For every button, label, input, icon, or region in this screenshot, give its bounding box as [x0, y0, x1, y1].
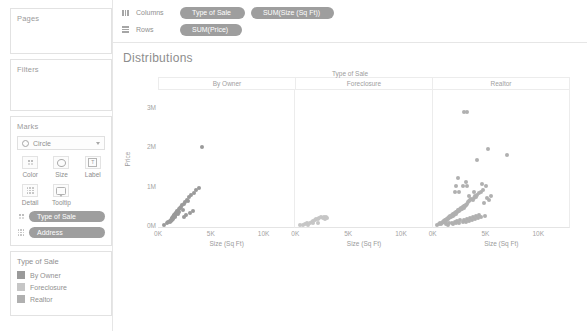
legend-item-label: Realtor: [30, 296, 53, 303]
y-tick-label: 1M: [147, 182, 156, 189]
legend-item-foreclosure[interactable]: Foreclosure: [17, 283, 105, 291]
scatter-point[interactable]: [475, 158, 479, 162]
x-tick-label: 5K: [207, 230, 215, 237]
legend-swatch: [17, 295, 25, 303]
columns-pills: Type of Sale SUM(Size (Sq Ft)): [180, 7, 334, 19]
scatter-point[interactable]: [200, 145, 204, 149]
label-button[interactable]: T Label: [79, 156, 107, 178]
scatter-point[interactable]: [197, 186, 201, 190]
marks-pill-type-of-sale[interactable]: Type of Sale: [29, 211, 105, 222]
color-button[interactable]: Color: [16, 156, 44, 178]
scatter-point[interactable]: [465, 110, 469, 114]
left-sidebar: Pages Filters Marks Circle Color: [0, 0, 112, 331]
y-axis-title: Price: [124, 152, 131, 167]
scatter-point[interactable]: [181, 208, 185, 212]
columns-shelf-label: Columns: [136, 9, 174, 16]
scatter-point[interactable]: [323, 217, 327, 221]
marks-card: Marks Circle Color Size: [10, 116, 112, 246]
scatter-pane-by-owner[interactable]: [158, 90, 295, 228]
x-tick-label: 10K: [258, 230, 270, 237]
columns-pill-type-of-sale[interactable]: Type of Sale: [180, 7, 245, 19]
scatter-pane-foreclosure[interactable]: [295, 90, 432, 228]
tooltip-button[interactable]: Tooltip: [47, 184, 75, 206]
x-tick-label: 5K: [344, 230, 352, 237]
mark-type-value: Circle: [33, 140, 92, 147]
detail-icon: [17, 229, 25, 236]
worksheet-main: Columns Type of Sale SUM(Size (Sq Ft)) R…: [112, 0, 587, 331]
scatter-point[interactable]: [481, 188, 485, 192]
circle-icon: [22, 140, 29, 147]
legend-item-realtor[interactable]: Realtor: [17, 295, 105, 303]
scatter-point[interactable]: [457, 190, 461, 194]
pane-header-by-owner[interactable]: By Owner: [158, 78, 296, 89]
color-legend: Type of Sale By Owner Foreclosure Realto…: [10, 251, 112, 316]
y-tick-label: 2M: [147, 143, 156, 150]
rows-shelf[interactable]: Rows SUM(Price): [113, 21, 587, 38]
marks-pill-address[interactable]: Address: [29, 227, 105, 238]
tooltip-icon: [53, 184, 69, 197]
scatter-point[interactable]: [505, 153, 509, 157]
marks-card-title: Marks: [11, 117, 111, 131]
x-axis-foreclosure[interactable]: Size (Sq Ft) 0K5K10K: [295, 228, 432, 254]
rows-icon: [121, 26, 130, 33]
pane-headers: By Owner Foreclosure Realtor: [158, 77, 570, 90]
legend-swatch: [17, 271, 25, 279]
pages-shelf[interactable]: Pages: [10, 8, 112, 54]
color-icon: [17, 214, 25, 219]
scatter-point[interactable]: [487, 198, 491, 202]
columns-icon: [121, 10, 130, 16]
scatter-point[interactable]: [467, 194, 471, 198]
filters-shelf[interactable]: Filters: [10, 59, 112, 111]
scatter-point[interactable]: [486, 147, 490, 151]
scatter-point[interactable]: [483, 214, 487, 218]
scatter-point[interactable]: [454, 184, 458, 188]
rows-shelf-label: Rows: [136, 26, 174, 33]
x-axis-title: Size (Sq Ft): [295, 240, 432, 247]
x-tick-label: 5K: [481, 230, 489, 237]
scatter-point[interactable]: [484, 184, 488, 188]
size-button[interactable]: Size: [47, 156, 75, 178]
visualization-area: Distributions Type of Sale By Owner Fore…: [113, 43, 587, 331]
scatter-point[interactable]: [191, 209, 195, 213]
x-axes: Size (Sq Ft) 0K5K10K Size (Sq Ft) 0K5K10…: [158, 228, 570, 254]
color-icon: [22, 156, 38, 169]
x-axis-title: Size (Sq Ft): [433, 240, 570, 247]
legend-swatch: [17, 283, 25, 291]
scatter-point[interactable]: [456, 176, 460, 180]
pane-header-realtor[interactable]: Realtor: [433, 78, 570, 89]
tableau-worksheet: Pages Filters Marks Circle Color: [0, 0, 587, 331]
scatter-point[interactable]: [465, 184, 469, 188]
pages-shelf-title: Pages: [11, 9, 111, 23]
marks-buttons-row-1: Color Size T Label: [11, 150, 111, 178]
marks-buttons-row-2: Detail Tooltip: [11, 178, 111, 206]
scatter-point[interactable]: [482, 201, 486, 205]
scatter-point[interactable]: [446, 223, 450, 227]
label-icon: T: [85, 156, 101, 169]
scatter-point[interactable]: [182, 215, 186, 219]
detail-button[interactable]: Detail: [16, 184, 44, 206]
legend-item-by-owner[interactable]: By Owner: [17, 271, 105, 279]
x-axis-realtor[interactable]: Size (Sq Ft) 0K5K10K: [433, 228, 570, 254]
scatter-pane-realtor[interactable]: [433, 90, 570, 228]
scatter-point[interactable]: [311, 221, 315, 225]
scatter-point[interactable]: [489, 194, 493, 198]
columns-pill-sum-size[interactable]: SUM(Size (Sq Ft)): [251, 7, 334, 19]
detail-button-label: Detail: [22, 199, 39, 206]
y-axis-ticks[interactable]: 0M1M2M3M: [136, 90, 156, 228]
mark-type-dropdown[interactable]: Circle: [17, 136, 105, 150]
scatter-point[interactable]: [472, 190, 476, 194]
color-legend-title: Type of Sale: [17, 257, 105, 266]
x-tick-label: 0K: [291, 230, 299, 237]
pane-header-foreclosure[interactable]: Foreclosure: [296, 78, 433, 89]
x-tick-label: 10K: [395, 230, 407, 237]
page-title: Distributions: [113, 43, 587, 65]
scatter-point[interactable]: [316, 221, 320, 225]
columns-shelf[interactable]: Columns Type of Sale SUM(Size (Sq Ft)): [113, 4, 587, 21]
marks-spacer: [79, 184, 107, 206]
rows-pill-sum-price[interactable]: SUM(Price): [180, 24, 242, 36]
detail-icon: [22, 184, 38, 197]
x-axis-by-owner[interactable]: Size (Sq Ft) 0K5K10K: [158, 228, 295, 254]
scatter-point[interactable]: [186, 199, 190, 203]
size-icon: [53, 156, 69, 169]
y-tick-label: 3M: [147, 103, 156, 110]
